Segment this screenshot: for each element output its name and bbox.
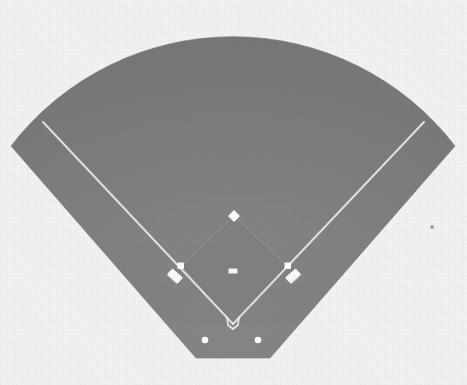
left-on-deck-circle: [202, 337, 209, 344]
third-base: [178, 263, 185, 270]
baseball-field-illustration: [0, 0, 467, 385]
right-on-deck-circle: [255, 337, 262, 344]
pitchers-rubber: [229, 269, 238, 274]
baseball-field-diagram-page: Baseball Field Overhead Diagram: [0, 0, 467, 385]
first-base: [285, 263, 292, 270]
scan-artifact-speck: [431, 226, 434, 229]
